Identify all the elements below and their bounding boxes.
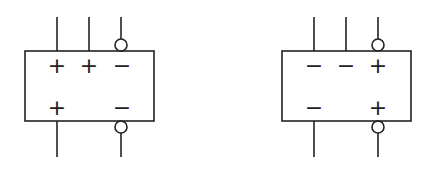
- left-top-inversion-bubble-icon: [115, 39, 127, 51]
- diagram-canvas: + + − + − − − + − +: [0, 0, 434, 169]
- right-block: [282, 17, 411, 157]
- left-top-sign-1: +: [48, 53, 66, 78]
- left-bottom-inversion-bubble-icon: [115, 121, 127, 133]
- left-top-sign-2: +: [80, 53, 98, 78]
- left-bottom-sign-1: +: [48, 95, 66, 120]
- right-bottom-inversion-bubble-icon: [372, 121, 384, 133]
- right-bottom-sign-1: −: [305, 95, 323, 120]
- left-block: [25, 17, 154, 157]
- right-bottom-sign-2: +: [369, 95, 387, 120]
- right-top-sign-2: −: [337, 53, 355, 78]
- right-top-inversion-bubble-icon: [372, 39, 384, 51]
- right-top-sign-3: +: [369, 53, 387, 78]
- right-top-sign-1: −: [305, 53, 323, 78]
- left-bottom-sign-2: −: [113, 95, 131, 120]
- left-top-sign-3: −: [113, 53, 131, 78]
